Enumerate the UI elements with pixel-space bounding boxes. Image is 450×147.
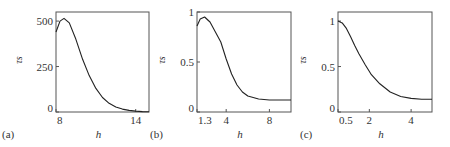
y-tick-label: 1 xyxy=(330,15,336,27)
chart-panel-c: 00.510.524hτs(c) xyxy=(297,12,432,141)
x-axis-label: h xyxy=(378,128,384,140)
y-tick-label: 0 xyxy=(330,102,336,114)
y-tick-label: 500 xyxy=(37,15,54,27)
y-tick-label: 250 xyxy=(37,61,54,73)
chart-panel-a: 0250500814hτs(a) xyxy=(2,12,149,141)
y-tick-label: 0 xyxy=(189,102,195,114)
y-axis-label: τs xyxy=(156,56,167,64)
data-line xyxy=(56,18,149,111)
x-tick-label: 2 xyxy=(367,114,373,126)
panel-label: (b) xyxy=(150,128,163,141)
x-tick-label: 8 xyxy=(57,114,63,126)
x-tick-label: 1.3 xyxy=(198,114,212,126)
x-tick-label: 8 xyxy=(267,114,273,126)
x-axis-label: h xyxy=(96,128,102,140)
data-line xyxy=(338,21,432,99)
chart-panel-b: 00.511.348hτs(b) xyxy=(150,6,291,141)
y-tick-label: 1 xyxy=(189,6,195,18)
plot-frame xyxy=(338,12,432,112)
x-tick-label: 4 xyxy=(408,114,414,126)
x-tick-label: 4 xyxy=(223,114,229,126)
y-axis-label: τs xyxy=(13,56,24,64)
data-line xyxy=(197,17,291,100)
y-tick-label: 0.5 xyxy=(180,56,194,68)
panel-label: (c) xyxy=(300,128,313,141)
panel-label: (a) xyxy=(2,128,15,141)
x-tick-label: 14 xyxy=(130,114,142,126)
figure: 0250500814hτs(a)00.511.348hτs(b)00.510.5… xyxy=(0,0,450,147)
x-axis-label: h xyxy=(237,128,243,140)
x-tick-label: 0.5 xyxy=(339,114,353,126)
y-tick-label: 0.5 xyxy=(321,61,335,73)
y-axis-label: τs xyxy=(297,56,308,64)
y-tick-label: 0 xyxy=(48,102,54,114)
plot-frame xyxy=(197,12,291,112)
